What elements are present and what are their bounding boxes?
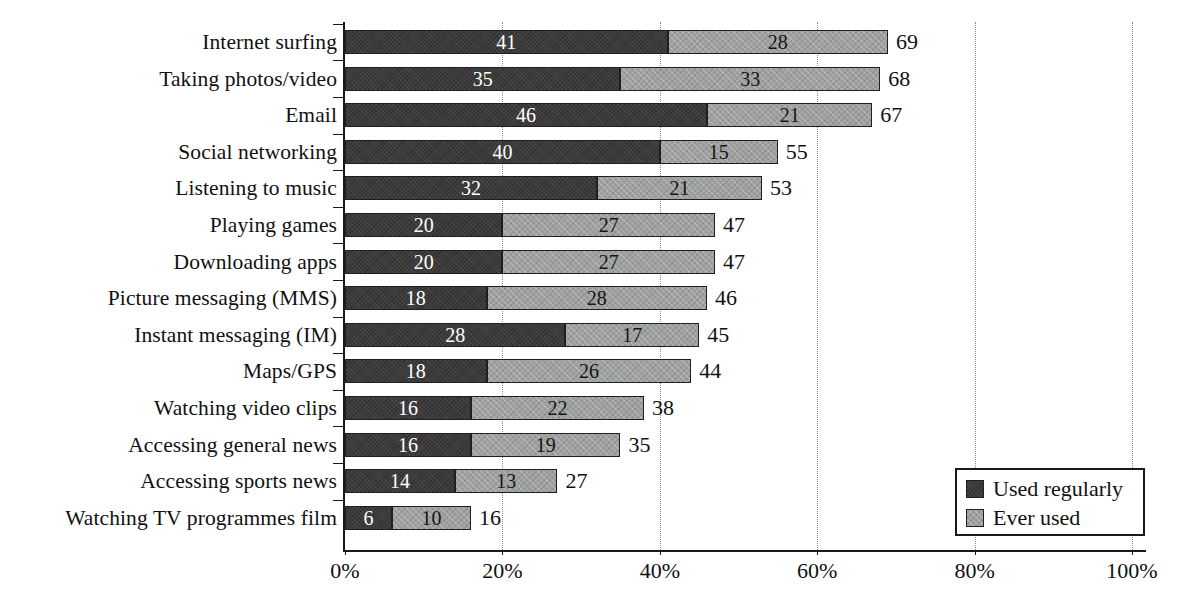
y-tick xyxy=(333,500,344,501)
bar-segment-ever-used: 10 xyxy=(392,506,471,530)
bar-total-label: 69 xyxy=(896,30,918,54)
bar-segment-ever-used: 26 xyxy=(487,359,692,383)
bar-segment-used-regularly: 32 xyxy=(345,176,597,200)
bar-segment-value: 6 xyxy=(364,508,374,528)
bar-segment-used-regularly: 28 xyxy=(345,323,565,347)
bar-segment-ever-used: 13 xyxy=(455,469,557,493)
bar-total-label: 53 xyxy=(770,176,792,200)
bar-segment-value: 15 xyxy=(709,142,729,162)
category-label: Picture messaging (MMS) xyxy=(0,287,337,309)
category-label: Accessing general news xyxy=(0,434,337,456)
bar-segment-ever-used: 17 xyxy=(565,323,699,347)
bar-segment-ever-used: 22 xyxy=(471,396,644,420)
bar-total-label: 45 xyxy=(707,323,729,347)
bar-segment-value: 33 xyxy=(740,69,760,89)
bar-segment-used-regularly: 6 xyxy=(345,506,392,530)
bar-segment-value: 21 xyxy=(780,105,800,125)
bar-row: 202747 xyxy=(345,250,1145,274)
bar-segment-value: 17 xyxy=(622,325,642,345)
bar-row: 281745 xyxy=(345,323,1145,347)
bar-row: 162238 xyxy=(345,396,1145,420)
legend-label-ever-used: Ever used xyxy=(993,506,1080,530)
bar-segment-value: 14 xyxy=(390,471,410,491)
bar-total-label: 55 xyxy=(786,140,808,164)
bar-segment-value: 40 xyxy=(492,142,512,162)
category-label: Email xyxy=(0,104,337,126)
bar-segment-used-regularly: 41 xyxy=(345,30,668,54)
bar-segment-used-regularly: 20 xyxy=(345,213,502,237)
bar-row: 182846 xyxy=(345,286,1145,310)
bar-segment-used-regularly: 35 xyxy=(345,67,620,91)
bar-segment-ever-used: 27 xyxy=(502,250,714,274)
stacked-bar-chart: Internet surfingTaking photos/videoEmail… xyxy=(0,0,1184,605)
bar-total-label: 38 xyxy=(652,396,674,420)
bar-segment-ever-used: 33 xyxy=(620,67,880,91)
bar-row: 412869 xyxy=(345,30,1145,54)
bar-row: 322153 xyxy=(345,176,1145,200)
bar-total-label: 68 xyxy=(888,67,910,91)
bar-row: 161935 xyxy=(345,433,1145,457)
category-label: Maps/GPS xyxy=(0,360,337,382)
legend-swatch-ever-used xyxy=(966,509,984,527)
bar-segment-value: 16 xyxy=(398,435,418,455)
bar-row: 202747 xyxy=(345,213,1145,237)
bar-segment-value: 18 xyxy=(406,288,426,308)
bar-segment-value: 16 xyxy=(398,398,418,418)
bar-segment-ever-used: 28 xyxy=(668,30,888,54)
bar-segment-used-regularly: 18 xyxy=(345,286,487,310)
category-label: Taking photos/video xyxy=(0,68,337,90)
category-label: Social networking xyxy=(0,141,337,163)
category-label: Watching TV programmes film xyxy=(0,507,337,529)
bar-segment-ever-used: 28 xyxy=(487,286,707,310)
bar-segment-value: 28 xyxy=(768,32,788,52)
y-tick xyxy=(333,134,344,135)
legend-swatch-used-regularly xyxy=(966,480,984,498)
bar-segment-value: 27 xyxy=(599,215,619,235)
category-label: Playing games xyxy=(0,214,337,236)
category-axis-labels: Internet surfingTaking photos/videoEmail… xyxy=(0,0,337,605)
y-tick xyxy=(333,170,344,171)
bar-total-label: 67 xyxy=(880,103,902,127)
category-label: Accessing sports news xyxy=(0,470,337,492)
legend-box: Used regularly Ever used xyxy=(955,468,1145,536)
bar-segment-value: 10 xyxy=(422,508,442,528)
y-tick xyxy=(333,390,344,391)
bar-segment-value: 35 xyxy=(473,69,493,89)
bar-segment-value: 13 xyxy=(496,471,516,491)
bar-segment-value: 20 xyxy=(414,215,434,235)
y-tick xyxy=(333,60,344,61)
bar-total-label: 35 xyxy=(628,433,650,457)
bar-segment-used-regularly: 16 xyxy=(345,396,471,420)
y-tick xyxy=(333,97,344,98)
bar-segment-used-regularly: 40 xyxy=(345,140,660,164)
bar-total-label: 27 xyxy=(565,469,587,493)
bar-total-label: 46 xyxy=(715,286,737,310)
bar-segment-used-regularly: 18 xyxy=(345,359,487,383)
y-tick xyxy=(333,243,344,244)
bar-row: 401555 xyxy=(345,140,1145,164)
bar-segment-ever-used: 15 xyxy=(660,140,778,164)
bar-segment-value: 20 xyxy=(414,252,434,272)
y-tick xyxy=(333,280,344,281)
bar-segment-value: 26 xyxy=(579,361,599,381)
legend-item-ever-used: Ever used xyxy=(966,503,1143,532)
legend-label-used-regularly: Used regularly xyxy=(993,477,1123,501)
y-tick xyxy=(333,463,344,464)
bar-segment-value: 32 xyxy=(461,178,481,198)
bar-segment-ever-used: 19 xyxy=(471,433,621,457)
bar-segment-value: 41 xyxy=(496,32,516,52)
legend-item-used-regularly: Used regularly xyxy=(966,474,1143,503)
bar-segment-value: 28 xyxy=(445,325,465,345)
y-tick xyxy=(333,426,344,427)
bar-row: 182644 xyxy=(345,359,1145,383)
y-tick xyxy=(333,207,344,208)
bar-segment-used-regularly: 20 xyxy=(345,250,502,274)
y-tick xyxy=(333,353,344,354)
bar-segment-value: 27 xyxy=(599,252,619,272)
bar-total-label: 47 xyxy=(723,213,745,237)
category-label: Watching video clips xyxy=(0,397,337,419)
category-label: Instant messaging (IM) xyxy=(0,324,337,346)
bar-segment-ever-used: 21 xyxy=(707,103,872,127)
bar-total-label: 16 xyxy=(479,506,501,530)
bar-segment-value: 18 xyxy=(406,361,426,381)
